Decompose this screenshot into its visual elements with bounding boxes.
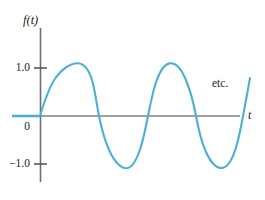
tick-label-zero: 0 (6, 121, 30, 133)
tick-label-positive-one: 1.0 (6, 62, 30, 74)
caption-strip (0, 190, 265, 200)
figure-container: f(t) t etc. 1.0 0 −1.0 (0, 0, 265, 200)
etc-annotation: etc. (212, 78, 228, 90)
y-axis-label: f(t) (23, 14, 38, 27)
x-axis-label: t (248, 110, 251, 122)
sine-wave-plot (0, 0, 265, 200)
tick-label-negative-one: −1.0 (2, 158, 30, 170)
